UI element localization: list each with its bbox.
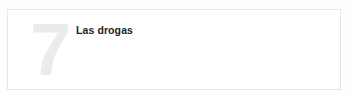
- chapter-number: 7: [19, 12, 81, 88]
- chapter-body-text: [76, 42, 334, 85]
- page-root: 7 Las drogas: [0, 0, 355, 100]
- chapter-title: Las drogas: [76, 24, 133, 37]
- chapter-card: 7 Las drogas: [7, 9, 341, 90]
